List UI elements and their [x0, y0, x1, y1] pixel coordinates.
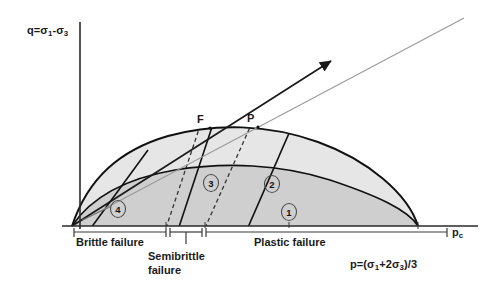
zone-label-plastic: Plastic failure — [254, 236, 326, 248]
circled-number-3-text: 3 — [208, 178, 213, 189]
diagram-canvas: 1 2 3 4 — [0, 0, 498, 296]
zone-label-brittle: Brittle failure — [76, 236, 144, 248]
point-label-F: F — [197, 113, 204, 125]
point-marker-F — [208, 126, 211, 129]
point-marker-P — [256, 125, 259, 128]
circled-number-4-text: 4 — [115, 204, 121, 215]
x-axis-label: p=(σ1+2σ3)/3 — [350, 258, 417, 272]
circled-number-1-text: 1 — [286, 207, 292, 218]
zone-label-semibrittle-line2: failure — [148, 264, 181, 276]
y-axis-label: q=σ1-σ3 — [27, 24, 68, 38]
failure-mode-diagram: 1 2 3 4 q=σ1-σ3 p=(σ1+2σ3)/3 F P pc Brit… — [0, 0, 498, 296]
pc-label: pc — [452, 226, 463, 240]
zone-label-semibrittle-line1: Semibrittle — [148, 250, 205, 262]
point-label-P: P — [247, 112, 254, 124]
circled-number-2-text: 2 — [269, 179, 274, 190]
